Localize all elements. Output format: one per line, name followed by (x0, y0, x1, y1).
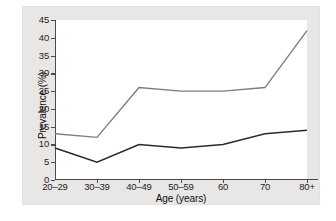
data-lines (55, 20, 307, 180)
x-tick-mark (307, 179, 308, 183)
series-lower-line (55, 130, 307, 162)
x-axis-title: Age (years) (55, 193, 307, 204)
x-tick-label: 20–29 (42, 181, 67, 192)
y-axis-title-holder: Prevalence (%) (18, 14, 42, 174)
series-upper-line (55, 31, 307, 138)
chart-figure: 051015202530354045 20–2930–3940–4950–596… (0, 0, 336, 221)
y-axis-title: Prevalence (%) (37, 46, 48, 166)
